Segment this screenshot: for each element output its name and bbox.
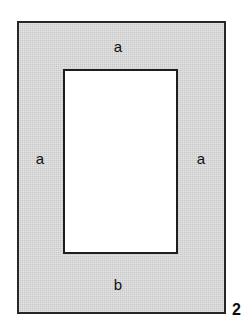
side-label-right: a [190,151,212,166]
inner-rectangle [63,69,178,254]
figure-container: a a a b 2 [0,0,252,327]
side-label-left: a [29,151,51,166]
side-label-bottom: b [105,277,131,292]
figure-number: 2 [232,302,250,318]
side-label-top: a [105,39,131,54]
